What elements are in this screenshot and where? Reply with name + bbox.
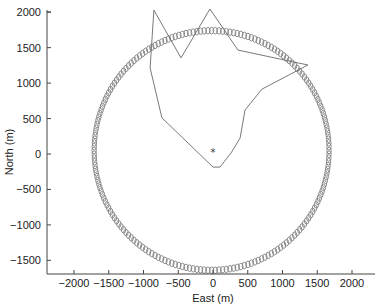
y-tick-label: 1000 [17, 77, 41, 89]
x-tick-label: 1000 [270, 277, 294, 289]
y-tick-label: 2000 [17, 6, 41, 18]
origin-marker: * [211, 147, 216, 158]
x-tick-label: 500 [239, 277, 257, 289]
x-tick-label: 0 [210, 277, 216, 289]
x-tick-label: −500 [166, 277, 191, 289]
x-tick-label: 2000 [340, 277, 364, 289]
origin-asterisk: * [211, 147, 216, 158]
trajectory-polyline [150, 9, 308, 167]
chart-canvas: * 2000150010005000−500−1000−1500 −2000−1… [0, 0, 382, 307]
x-tick-label: −1000 [128, 277, 159, 289]
y-axis-label: North (m) [3, 129, 15, 175]
y-tick-label: −500 [16, 183, 41, 195]
y-tick-label: 0 [35, 148, 41, 160]
x-tick-label: 1500 [305, 277, 329, 289]
y-tick-label: 1500 [17, 42, 41, 54]
y-axis-ticks: 2000150010005000−500−1000−1500 [10, 6, 51, 266]
x-axis-ticks: −2000−1500−1000−5000500100015002000 [59, 270, 365, 289]
x-tick-label: −2000 [59, 277, 90, 289]
x-axis-label: East (m) [192, 292, 234, 304]
y-tick-label: 500 [23, 113, 41, 125]
y-tick-label: −1500 [10, 254, 41, 266]
y-tick-label: −1000 [10, 219, 41, 231]
trajectory-line [150, 9, 308, 167]
x-tick-label: −1500 [93, 277, 124, 289]
